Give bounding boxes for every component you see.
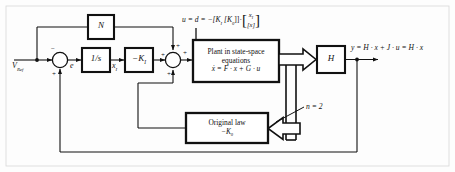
label-control-law-equation: u = d = −[KI [K0]]·[xI[x]] bbox=[182, 11, 260, 29]
label-bus-width: n = 2 bbox=[306, 103, 323, 111]
block-diagram-canvas: VRef e xI − + + + + + N 1/s −KI Plant in… bbox=[0, 0, 455, 172]
sign-sum2-plus-bottom: + bbox=[167, 70, 171, 78]
block-n-label: N bbox=[88, 21, 114, 30]
sign-sum1-plus: + bbox=[52, 70, 56, 78]
label-integrator-state: xI bbox=[112, 62, 117, 72]
summing-junction-control-circle bbox=[165, 52, 180, 67]
bus-width-slash bbox=[276, 107, 304, 122]
sign-sum2-plus-left: + bbox=[161, 51, 165, 59]
label-output-equation: y = H · x + J · u = H · x bbox=[351, 44, 423, 52]
bus-plant-to-h bbox=[279, 49, 316, 70]
block-integrator-label: 1/s bbox=[82, 54, 110, 63]
label-error-signal: e bbox=[70, 62, 74, 70]
plant-line-3: ẋ = F · x + G · u bbox=[212, 65, 261, 74]
label-vref: VRef bbox=[12, 62, 23, 72]
summing-junction-error-circle bbox=[52, 52, 67, 67]
state-vector: xI[x] bbox=[247, 11, 255, 29]
block-plant-label: Plant in state-space equations ẋ = F · x… bbox=[193, 40, 279, 82]
block-gain-ki-label: −KI bbox=[125, 54, 153, 65]
sign-sum2-plus-right: + bbox=[183, 49, 187, 57]
sign-sum2-plus-top: + bbox=[176, 42, 180, 50]
block-original-law-label: Original law −K0 bbox=[186, 113, 268, 143]
block-h-label: H bbox=[317, 54, 345, 63]
sign-sum1-minus: − bbox=[51, 45, 55, 53]
original-law-line-2: −K0 bbox=[221, 128, 233, 138]
